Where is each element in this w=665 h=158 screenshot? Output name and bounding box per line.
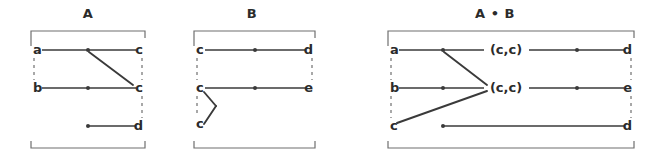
panel-b-left-label-1: c <box>196 80 204 95</box>
panel-ab-bracket-top <box>388 31 634 38</box>
panel-ab-node-dot-3 <box>575 86 579 90</box>
panel-b: Bcccde <box>194 6 315 148</box>
panel-ab-bracket-bottom <box>388 141 634 148</box>
panel-a-title: A <box>83 6 94 21</box>
panel-a-left-label-1: b <box>33 80 42 95</box>
panel-b-node-dot-0 <box>253 48 257 52</box>
panel-ab-node-dot-1 <box>575 48 579 52</box>
panel-ab-left-label-1: b <box>390 80 399 95</box>
panel-b-right-label-1: e <box>304 80 313 95</box>
panel-ab-right-label-1: e <box>623 80 632 95</box>
panel-b-left-label-0: c <box>196 42 204 57</box>
panel-b-diagonal-1 <box>204 106 216 124</box>
panel-ab-diagonal-1 <box>397 91 487 123</box>
panel-b-left-label-2: c <box>196 116 204 131</box>
panel-a-node-dot-1 <box>86 86 90 90</box>
panel-ab-diagonal-0 <box>444 52 487 85</box>
panel-ab-left-label-0: a <box>390 42 399 57</box>
panel-a-right-label-2: d <box>134 118 143 133</box>
panel-ab-right-label-0: d <box>623 42 632 57</box>
panel-b-bracket-top <box>194 31 315 38</box>
panel-ab-left-label-2: c <box>390 118 398 133</box>
panel-a-left-label-0: a <box>33 42 42 57</box>
panel-b-diagonal-0 <box>204 92 216 106</box>
panel-b-title: B <box>247 6 257 21</box>
panel-ab-title: A • B <box>475 6 515 21</box>
panel-a-bracket-bottom <box>31 141 145 148</box>
panel-b-bracket-bottom <box>194 141 315 148</box>
panel-ab-mid-label-0: (c,c) <box>490 42 522 57</box>
panel-a-bracket-top <box>31 31 145 38</box>
panel-ab-node-dot-4 <box>441 124 445 128</box>
panel-b-node-dot-1 <box>253 86 257 90</box>
panel-a-node-dot-2 <box>86 124 90 128</box>
panel-a-right-label-1: c <box>135 80 143 95</box>
panel-ab-mid-label-1: (c,c) <box>490 80 522 95</box>
panel-ab-node-dot-2 <box>441 86 445 90</box>
relation-composition-figure: AabccdBcccdeA • Babcded(c,c)(c,c) <box>0 0 665 158</box>
panel-ab: A • Babcded(c,c)(c,c) <box>388 6 634 148</box>
panel-ab-right-label-2: d <box>623 118 632 133</box>
panel-a: Aabccd <box>31 6 145 148</box>
panel-a-diagonal-0 <box>89 52 133 85</box>
panel-b-right-label-0: d <box>304 42 313 57</box>
panel-a-right-label-0: c <box>135 42 143 57</box>
diagram-canvas: AabccdBcccdeA • Babcded(c,c)(c,c) <box>0 0 665 158</box>
